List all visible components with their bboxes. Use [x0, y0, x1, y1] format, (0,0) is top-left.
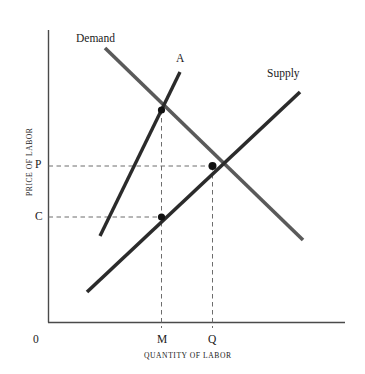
point-a-demand-intersection — [158, 106, 165, 113]
demand-label: Demand — [76, 33, 115, 45]
y-tick-label-C: C — [35, 211, 43, 223]
supply-label: Supply — [267, 68, 300, 80]
x-axis-title: QUANTITY OF LABOR — [144, 352, 232, 360]
supply-curve — [87, 92, 300, 292]
y-tick-label-P: P — [35, 159, 41, 171]
x-tick-label-M: M — [157, 334, 167, 346]
labor-market-supply-demand-chart: Demand Supply A P C M Q 0 PRICE OF LABOR… — [0, 0, 365, 374]
point-monopsony-cost — [158, 213, 165, 220]
curve-a-label: A — [176, 53, 184, 65]
origin-label: 0 — [33, 334, 39, 346]
y-axis-title: PRICE OF LABOR — [26, 128, 34, 196]
curve-a-marginal-cost — [100, 72, 180, 236]
point-competitive-equilibrium — [209, 162, 217, 170]
x-tick-label-Q: Q — [208, 334, 216, 346]
